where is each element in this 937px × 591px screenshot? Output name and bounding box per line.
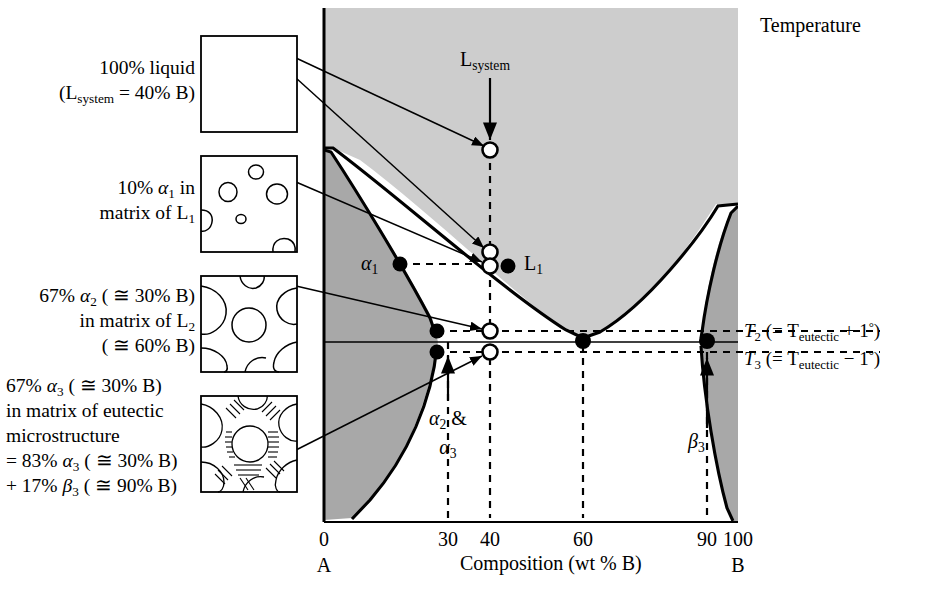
- label-t3-close: ): [874, 348, 880, 369]
- legend-item4-alpha-sub: 3: [57, 384, 64, 399]
- legend-item2-in: in: [175, 177, 195, 198]
- legend-item4-approx: ( ≅ 30% B): [64, 375, 162, 396]
- microstructure-box-eutectic: [201, 396, 297, 492]
- marker-alpha2: [430, 324, 445, 339]
- x-tick-label-30: 30: [433, 528, 463, 551]
- label-t3-post: − 1: [839, 348, 869, 369]
- legend-item4-beta-sub: 3: [72, 484, 79, 499]
- legend-item3-line1: 67% α2 ( ≅ 30% B): [4, 284, 195, 309]
- legend-item4-alpha2-symbol: α: [63, 450, 73, 471]
- label-l1-letter: L: [524, 252, 536, 274]
- label-alpha1-symbol: α: [361, 252, 372, 274]
- legend-item3-l-sub: 2: [188, 319, 195, 334]
- microstructure-box-alpha1: [201, 156, 297, 252]
- legend-item4-line2: in matrix of eutectic: [6, 399, 201, 424]
- label-alpha3-symbol: α: [439, 436, 450, 458]
- legend-item-67-alpha3-eutectic: 67% α3 ( ≅ 30% B) in matrix of eutectic …: [6, 374, 201, 499]
- label-alpha2-symbol: α: [429, 407, 440, 429]
- legend-item4-approx3: ( ≅ 90% B): [79, 475, 177, 496]
- label-alpha1: α1: [361, 252, 378, 275]
- marker-l1-filled: [501, 259, 516, 274]
- label-beta3-sub: 3: [698, 440, 705, 455]
- legend-item2-pct: 10%: [117, 177, 158, 198]
- label-alpha2-alpha3: α2 & α3: [406, 404, 490, 462]
- label-alpha1-sub: 1: [372, 262, 379, 277]
- label-t2-post: + 1: [839, 320, 869, 341]
- label-l-system: Lsystem: [460, 48, 510, 71]
- legend-item-67-alpha2: 67% α2 ( ≅ 30% B) in matrix of L2 ( ≅ 60…: [4, 284, 195, 359]
- phase-diagram-figure: 100% liquid (Lsystem = 40% B) 10% α1 in …: [0, 0, 937, 591]
- legend-item-100-liquid: 100% liquid (Lsystem = 40% B): [10, 56, 195, 106]
- legend-item1-line2: (Lsystem = 40% B): [10, 81, 195, 106]
- legend-item-10-alpha1: 10% α1 in matrix of L1: [10, 176, 195, 226]
- label-t2: T2 (= Teutectic + 1°): [744, 320, 880, 342]
- legend-item4-beta-symbol: β: [63, 475, 73, 496]
- label-beta3: β3: [688, 430, 705, 453]
- marker-l-system-open: [483, 143, 498, 158]
- endpoint-label-b: B: [728, 554, 748, 577]
- legend-item2-l-sub: 1: [188, 211, 195, 226]
- label-l1: L1: [524, 252, 543, 275]
- legend-item3-line3: ( ≅ 60% B): [4, 334, 195, 359]
- legend-item3-approx: ( ≅ 30% B): [97, 285, 195, 306]
- microstructure-box-liquid: [201, 36, 297, 132]
- x-tick-label-40: 40: [475, 528, 505, 551]
- legend-item2-matrix: matrix of L: [100, 202, 189, 223]
- legend-item2-line2: matrix of L1: [10, 201, 195, 226]
- legend-item3-pct: 67%: [39, 285, 80, 306]
- legend-item4-approx2: ( ≅ 30% B): [79, 450, 177, 471]
- marker-beta3: [699, 333, 715, 349]
- label-t3-symbol: T: [744, 348, 755, 369]
- x-tick-label-100: 100: [718, 528, 758, 551]
- legend-item3-alpha-sub: 2: [90, 294, 97, 309]
- label-t2-eutectic-sub: eutectic: [799, 329, 839, 344]
- marker-alpha1: [393, 257, 408, 272]
- legend-item4-alpha-symbol: α: [47, 375, 57, 396]
- legend-item1-l-prefix: (L: [59, 82, 77, 103]
- y-axis-title: Temperature: [760, 14, 861, 37]
- legend-item2-alpha-sub: 1: [168, 186, 175, 201]
- label-alpha2-line: α2 &: [406, 404, 490, 433]
- label-t3: T3 (= Teutectic − 1°): [744, 348, 880, 370]
- label-t2-mid: (= T: [761, 320, 799, 341]
- label-t3-eutectic-sub: eutectic: [799, 357, 839, 372]
- x-tick-label-60: 60: [568, 528, 598, 551]
- label-alpha2-ampersand: &: [446, 407, 467, 429]
- legend-item4-line4: = 83% α3 ( ≅ 30% B): [6, 449, 201, 474]
- label-l1-sub: 1: [536, 262, 543, 277]
- legend-item4-pct: 67%: [6, 375, 47, 396]
- label-t2-symbol: T: [744, 320, 755, 341]
- label-t2-close: ): [874, 320, 880, 341]
- microstructure-box-alpha2: [201, 276, 297, 372]
- legend-item2-alpha-symbol: α: [158, 177, 168, 198]
- x-tick-label-0: 0: [314, 528, 334, 551]
- legend-item1-line1: 100% liquid: [10, 56, 195, 81]
- marker-alpha3: [430, 345, 445, 360]
- x-axis-title: Composition (wt % B): [460, 552, 642, 575]
- label-l-system-sub: system: [472, 58, 510, 73]
- legend-item1-suffix: = 40% B): [114, 82, 195, 103]
- legend-item1-subscript: system: [77, 91, 114, 106]
- legend-item3-line2: in matrix of L2: [4, 309, 195, 334]
- label-t3-mid: (= T: [761, 348, 799, 369]
- endpoint-label-a: A: [314, 554, 334, 577]
- legend-item3-alpha-symbol: α: [80, 285, 90, 306]
- label-alpha3-line: α3: [406, 433, 490, 462]
- label-l-system-letter: L: [460, 48, 472, 70]
- marker-t3-open: [483, 345, 498, 360]
- legend-item4-eq-pct: = 83%: [6, 450, 63, 471]
- legend-item4-plus-pct: + 17%: [6, 475, 63, 496]
- marker-t2-open: [483, 324, 498, 339]
- marker-eutectic: [575, 333, 591, 349]
- label-beta3-symbol: β: [688, 430, 698, 452]
- legend-item2-line1: 10% α1 in: [10, 176, 195, 201]
- legend-item3-matrix: in matrix of L: [80, 310, 189, 331]
- legend-item4-line5: + 17% β3 ( ≅ 90% B): [6, 474, 201, 499]
- legend-item4-line3: microstructure: [6, 424, 201, 449]
- label-alpha3-sub: 3: [450, 446, 457, 461]
- legend-item4-line1: 67% α3 ( ≅ 30% B): [6, 374, 201, 399]
- marker-l1-open: [483, 259, 498, 274]
